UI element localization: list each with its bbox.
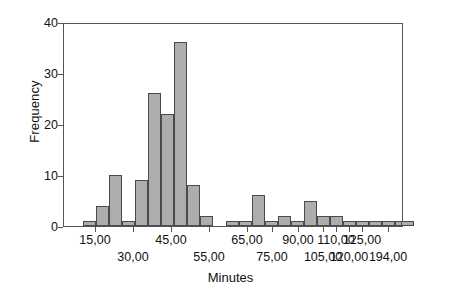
histogram-bar (317, 216, 330, 226)
x-tick-mark (298, 227, 299, 232)
x-tick-mark (171, 227, 172, 232)
y-tick-label: 10 (32, 170, 58, 183)
histogram-bar (265, 221, 278, 226)
histogram-bar (83, 221, 96, 226)
histogram-bar (161, 114, 174, 226)
x-tick-mark (388, 227, 389, 232)
histogram-bar (174, 42, 187, 226)
histogram-bar (304, 201, 317, 227)
y-axis-tick-labels: 010203040 (32, 0, 58, 302)
x-tick-label: 30,00 (117, 251, 148, 264)
histogram-bar (356, 221, 369, 226)
histogram-bar (135, 180, 148, 226)
x-tick-mark (336, 227, 337, 232)
x-axis-title: Minutes (0, 270, 461, 285)
y-tick-mark (58, 227, 63, 228)
histogram-bar (278, 216, 291, 226)
histogram-bar (148, 93, 161, 226)
x-tick-mark (95, 227, 96, 232)
y-tick-label: 30 (32, 68, 58, 81)
x-tick-label: 120,00 (330, 251, 368, 264)
x-tick-mark (349, 227, 350, 232)
histogram-bar (252, 195, 265, 226)
histogram-bar (291, 221, 304, 226)
x-tick-label: 45,00 (155, 234, 186, 247)
x-tick-mark (272, 227, 273, 232)
histogram-bar (401, 221, 414, 226)
x-tick-mark (362, 227, 363, 232)
histogram-bar (96, 206, 109, 226)
histogram-bar (109, 175, 122, 226)
x-tick-label: 194,00 (369, 251, 407, 264)
x-tick-label: 15,00 (79, 234, 110, 247)
histogram-bar (369, 221, 382, 226)
y-tick-mark (58, 74, 63, 75)
histogram-figure: Frequency 010203040 15,0030,0045,0055,00… (0, 0, 461, 302)
histogram-bar (239, 221, 252, 226)
x-tick-label: 125,00 (343, 234, 381, 247)
bars-layer (64, 24, 402, 226)
histogram-bar (330, 216, 343, 226)
x-tick-label: 75,00 (256, 251, 287, 264)
y-tick-mark (58, 125, 63, 126)
y-tick-label: 0 (32, 221, 58, 234)
plot-area (63, 23, 403, 227)
x-tick-label: 65,00 (231, 234, 262, 247)
x-tick-mark (247, 227, 248, 232)
x-tick-label: 90,00 (282, 234, 313, 247)
histogram-bar (226, 221, 239, 226)
histogram-bar (187, 185, 200, 226)
y-tick-label: 40 (32, 17, 58, 30)
histogram-bar (122, 221, 135, 226)
x-tick-mark (133, 227, 134, 232)
x-tick-label: 55,00 (193, 251, 224, 264)
y-tick-label: 20 (32, 119, 58, 132)
y-tick-mark (58, 176, 63, 177)
histogram-bar (382, 221, 395, 226)
histogram-bar (343, 221, 356, 226)
x-tick-mark (209, 227, 210, 232)
histogram-bar (200, 216, 213, 226)
y-tick-mark (58, 23, 63, 24)
x-tick-mark (323, 227, 324, 232)
